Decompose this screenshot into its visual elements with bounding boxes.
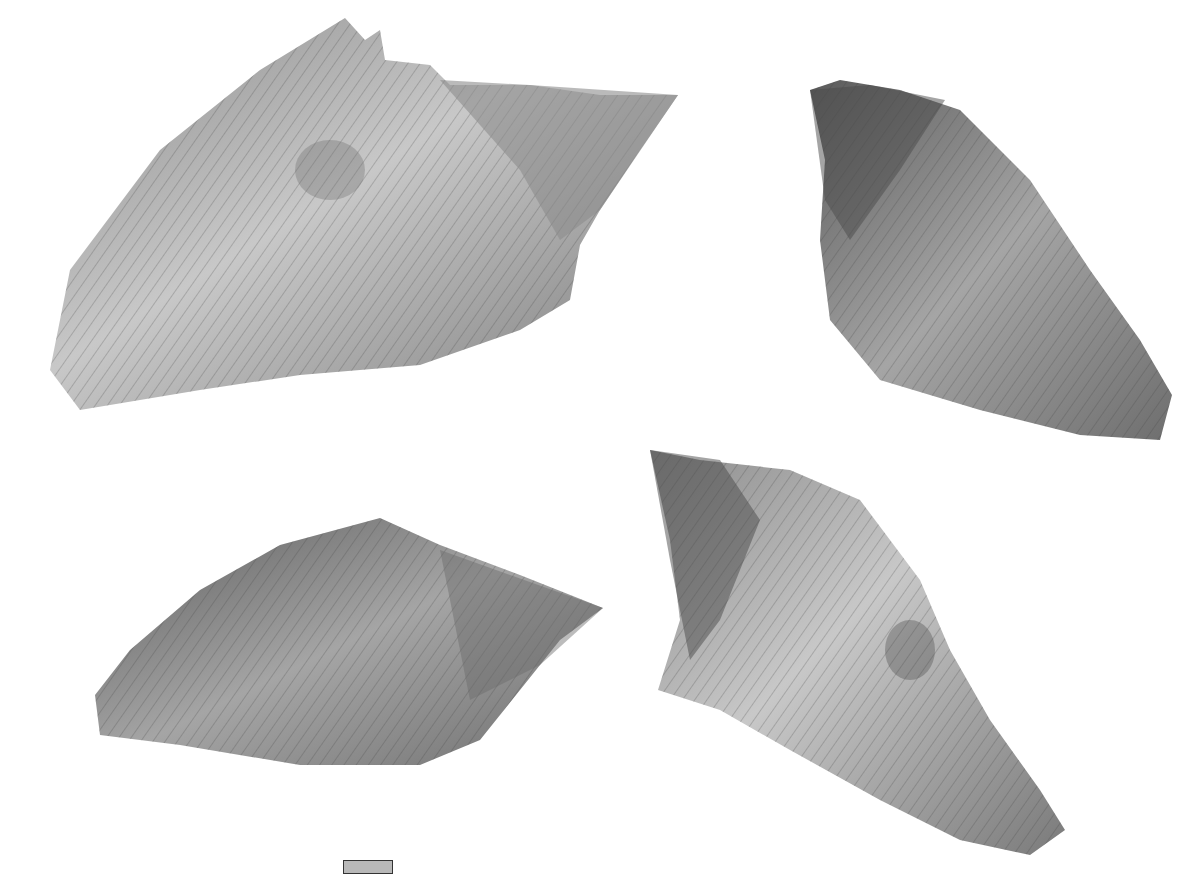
shell-specimen-2: [810, 80, 1172, 440]
shell-specimen-4: [650, 450, 1065, 855]
shell-specimen-3: [95, 518, 603, 765]
scale-bar: [343, 860, 393, 874]
shell-specimen-1: [50, 18, 678, 410]
